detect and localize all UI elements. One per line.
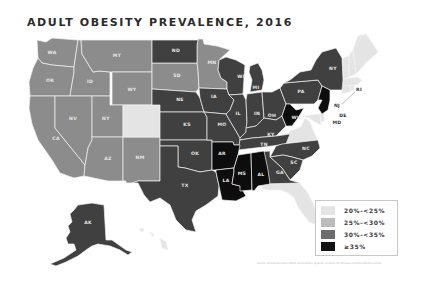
svg-text:CA: CA [52,136,60,141]
svg-text:TX: TX [181,183,188,188]
svg-text:MS: MS [238,171,246,176]
svg-text:NE: NE [176,97,184,102]
svg-text:KS: KS [183,122,190,127]
svg-text:IL: IL [235,111,240,116]
state-ak[interactable] [50,203,132,266]
legend-label: 30%-<35% [344,231,385,238]
legend: 20%-<25% 25%-<30% 30%-<35% ≥35% [315,200,398,256]
svg-text:WI: WI [237,74,244,79]
state-co[interactable] [123,105,160,137]
svg-text:OH: OH [268,113,276,118]
svg-text:DE: DE [339,113,347,118]
svg-text:NC: NC [302,146,310,151]
svg-text:AL: AL [257,172,264,177]
svg-text:IN: IN [254,111,260,116]
svg-text:MT: MT [113,53,122,58]
state-wa[interactable] [37,38,78,67]
svg-text:ID: ID [87,79,93,84]
svg-text:PA: PA [297,89,304,94]
legend-item-25-30: 25%-<30% [321,217,397,229]
legend-label: 25%-<30% [344,219,385,226]
legend-label: ≥35% [344,243,366,250]
source-note: Source: Behavioral Risk Factor Surveilla… [257,262,381,265]
svg-text:WA: WA [47,50,56,55]
state-fl[interactable] [262,183,317,224]
svg-text:IA: IA [211,94,217,99]
svg-text:SC: SC [290,160,298,165]
svg-text:NJ: NJ [334,103,340,108]
svg-text:LA: LA [222,178,229,183]
legend-item-20-25: 20%-<25% [321,205,397,217]
legend-item-35-plus: ≥35% [321,241,397,253]
svg-text:OR: OR [46,78,54,83]
state-me[interactable] [353,34,378,74]
svg-text:GA: GA [276,170,284,175]
state-vt[interactable] [343,56,349,79]
svg-text:NY: NY [102,116,110,121]
state-hi[interactable] [140,228,168,250]
svg-text:MI: MI [253,85,260,90]
svg-text:KY: KY [267,132,275,137]
legend-label: 20%-<25% [344,207,385,214]
legend-swatch [321,230,335,239]
svg-text:WV: WV [291,115,300,120]
svg-text:MO: MO [217,122,226,127]
svg-text:AK: AK [84,220,92,225]
state-nm[interactable] [123,137,160,183]
svg-text:AZ: AZ [104,156,112,161]
svg-text:NV: NV [69,116,77,121]
svg-text:RI: RI [356,87,362,92]
svg-text:AR: AR [218,151,226,156]
svg-text:MN: MN [207,60,216,65]
svg-text:NY: NY [329,66,337,71]
legend-swatch [321,218,335,227]
svg-text:OK: OK [191,151,199,156]
svg-text:MD: MD [333,120,342,125]
svg-text:WY: WY [128,87,137,92]
svg-text:NM: NM [135,155,144,160]
svg-text:TN: TN [260,142,268,147]
svg-text:SD: SD [173,73,181,78]
legend-item-30-35: 30%-<35% [321,229,397,241]
legend-swatch [321,206,335,215]
legend-swatch [321,242,335,251]
svg-text:ND: ND [172,48,180,53]
